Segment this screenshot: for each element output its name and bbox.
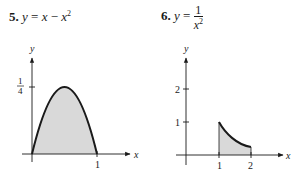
x-tick-label-1: 1 (95, 159, 100, 170)
x-tick-label-1: 1 (217, 160, 222, 171)
y-tick-label-den: 4 (18, 86, 23, 96)
y-tick-label-num: 1 (18, 76, 23, 86)
graph-5: x y 1 1 4 (17, 43, 139, 170)
y-axis-label: y (29, 43, 35, 54)
x-axis-label: x (285, 150, 291, 161)
y-tick-label-1: 1 (175, 117, 180, 128)
y-tick-label-2: 2 (175, 84, 180, 95)
graph-6: x y 1 2 1 2 (175, 43, 291, 171)
x-axis-label: x (133, 149, 139, 160)
shaded-region (219, 122, 251, 155)
x-tick-label-2: 2 (248, 160, 253, 171)
y-axis-label: y (183, 43, 189, 54)
graphs-canvas: x y 1 1 4 x y 1 2 1 2 (0, 0, 300, 180)
